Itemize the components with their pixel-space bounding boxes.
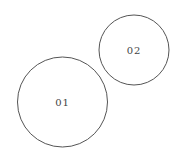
node-02: 02 bbox=[99, 15, 169, 85]
label-01: 01 bbox=[55, 97, 70, 108]
label-02: 02 bbox=[127, 45, 142, 56]
diagram-canvas: 01 02 bbox=[0, 0, 179, 160]
node-01: 01 bbox=[18, 57, 108, 147]
